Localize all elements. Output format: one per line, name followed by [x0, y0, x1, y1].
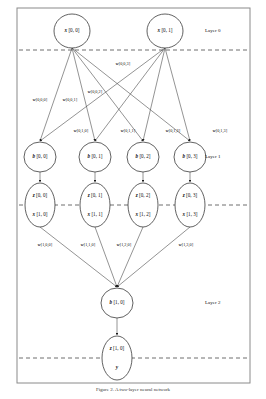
node-b-0-0: b [0, 0]	[24, 142, 56, 172]
weight-label-w-0-1-1: w[0,1,1]	[121, 128, 136, 134]
node-zx-0-0-top-label: z [0, 0]	[32, 192, 48, 198]
node-b-0-3-label: b [0, 3]	[183, 154, 198, 160]
node-x-0-0-label: x [0, 0]	[64, 28, 80, 34]
edge-hidden-2-to-output-bias	[117, 227, 143, 287]
edge-hidden-3-to-output-bias	[117, 227, 190, 287]
node-zx-0-1: z [0, 1]x [1, 1]	[80, 183, 110, 227]
node-x-0-1-label: x [0, 1]	[157, 28, 173, 34]
weight-label-w-1-0-0: w[1,0,0]	[38, 242, 53, 248]
node-x-0-0: x [0, 0]	[54, 14, 90, 48]
node-zx-0-1-top-label: z [0, 1]	[87, 192, 103, 198]
weight-label-w-0-0-2: w[0,0,2]	[88, 89, 103, 95]
node-zy-1-0-top-label: z [1, 0]	[109, 345, 125, 351]
edge-hidden-1-to-output-bias	[95, 227, 117, 287]
figure-container: x [0, 0]x [0, 1]b [0, 0]b [0, 1]b [0, 2]…	[0, 0, 266, 399]
node-zx-0-3-shape	[175, 183, 205, 227]
node-zx-0-3-top-label: z [0, 3]	[182, 192, 198, 198]
weight-label-w-0-1-0: w[0,1,0]	[74, 128, 89, 134]
node-zx-0-2-shape	[128, 183, 158, 227]
node-zx-0-1-shape	[80, 183, 110, 227]
node-zy-1-0-shape	[102, 336, 132, 380]
figure-caption: Figure 2. A two-layer neural network	[0, 387, 266, 392]
weight-label-w-0-1-3: w[0,1,3]	[213, 128, 228, 134]
weight-label-w-0-0-3: w[0,0,3]	[116, 61, 131, 67]
weight-label-w-1-3-0: w[1,3,0]	[179, 242, 194, 248]
edge-hidden-0-to-output-bias	[40, 227, 117, 287]
network-nodes: x [0, 0]x [0, 1]b [0, 0]b [0, 1]b [0, 2]…	[24, 14, 206, 380]
node-b-0-2-label: b [0, 2]	[136, 154, 151, 160]
node-b-1-0-label: b [1, 0]	[110, 300, 125, 306]
node-zx-0-0-shape	[25, 183, 55, 227]
node-b-0-2: b [0, 2]	[127, 142, 159, 172]
weight-label-w-0-0-1: w[0,0,1]	[63, 97, 78, 103]
node-zx-0-1-bottom-label: x [1, 1]	[87, 211, 103, 217]
node-b-0-0-label: b [0, 0]	[33, 154, 48, 160]
node-b-0-1: b [0, 1]	[79, 142, 111, 172]
node-zy-1-0: z [1, 0]y	[102, 336, 132, 380]
edge-input-0-to-bias-0	[40, 48, 72, 141]
node-zx-0-2: z [0, 2]x [1, 2]	[128, 183, 158, 227]
label-layer-1: Layer 1	[205, 154, 221, 159]
node-zx-0-0: z [0, 0]x [1, 0]	[25, 183, 55, 227]
weight-label-w-0-1-2: w[0,1,2]	[166, 128, 181, 134]
node-zx-0-0-bottom-label: x [1, 0]	[32, 211, 48, 217]
node-b-0-3: b [0, 3]	[174, 142, 206, 172]
label-layer-2: Layer 2	[205, 300, 221, 305]
label-layer-0: Layer 0	[205, 28, 221, 33]
node-zx-0-2-top-label: z [0, 2]	[135, 192, 151, 198]
node-zx-0-3: z [0, 3]x [1, 3]	[175, 183, 205, 227]
weight-label-w-0-0-0: w[0,0,0]	[33, 97, 48, 103]
neural-network-diagram: x [0, 0]x [0, 1]b [0, 0]b [0, 1]b [0, 2]…	[0, 0, 266, 399]
node-zx-0-2-bottom-label: x [1, 2]	[135, 211, 151, 217]
node-b-1-0: b [1, 0]	[101, 288, 133, 318]
layer-name-labels: Layer 0Layer 1Layer 2	[205, 28, 221, 305]
node-b-0-1-label: b [0, 1]	[88, 154, 103, 160]
node-zy-1-0-bottom-label: y	[115, 364, 119, 370]
weight-label-w-1-1-0: w[1,1,0]	[81, 242, 96, 248]
node-zx-0-3-bottom-label: x [1, 3]	[182, 211, 198, 217]
node-x-0-1: x [0, 1]	[147, 14, 183, 48]
weight-label-w-1-2-0: w[1,2,0]	[117, 242, 132, 248]
